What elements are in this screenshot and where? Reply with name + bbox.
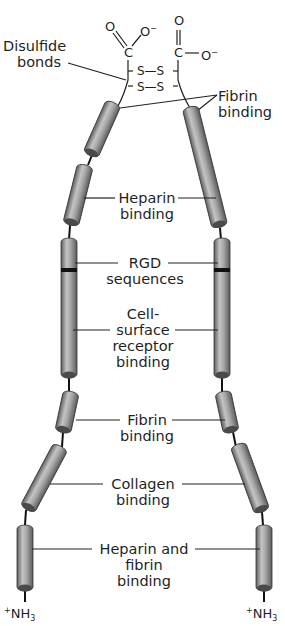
label-fibrin-binding-top: Fibrin binding	[218, 88, 284, 120]
domain-cylinder	[61, 238, 77, 379]
domain-cylinder	[214, 238, 230, 379]
domain-cylinder	[256, 525, 272, 592]
label-fibrin-binding-mid: Fibrin binding	[112, 412, 182, 444]
label-rgd-sequences: RGD sequences	[100, 255, 190, 287]
domain-cylinder	[55, 390, 79, 435]
n-terminus-right: +NH3	[246, 604, 277, 626]
label-heparin-binding: Heparin binding	[112, 190, 182, 222]
domain-cylinder	[230, 441, 270, 515]
label-heparin-fibrin-binding: Heparin and fibrin binding	[92, 541, 196, 589]
disulfide-bond-1: S—S	[137, 64, 164, 78]
left-carboxylate-oxygen: O−	[140, 22, 157, 39]
right-chain	[182, 105, 272, 592]
label-collagen-binding: Collagen binding	[102, 476, 184, 508]
right-carboxylate-oxygen: O−	[201, 46, 218, 63]
left-carbon: C	[124, 46, 133, 60]
domain-cylinder	[63, 163, 94, 228]
right-carbon: C	[174, 46, 183, 60]
domain-cylinder	[215, 390, 239, 435]
label-disulfide-bonds: Disulfide bonds	[3, 38, 79, 70]
n-terminus-left: +NH3	[4, 604, 35, 626]
domain-cylinder	[20, 442, 68, 514]
label-cell-surface-receptor-binding: Cell- surface receptor binding	[105, 306, 181, 370]
linkers	[25, 155, 264, 602]
domain-cylinder	[17, 525, 33, 592]
domain-cylinder	[182, 105, 228, 230]
disulfide-bond-2: S—S	[137, 80, 164, 94]
left-carbonyl-oxygen: O	[105, 20, 115, 34]
domain-cylinder	[83, 99, 121, 159]
right-carbonyl-oxygen: O	[174, 14, 184, 28]
